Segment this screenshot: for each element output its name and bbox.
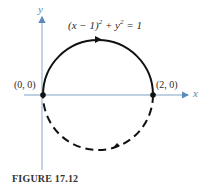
- point-label-2-0: (2, 0): [156, 79, 178, 90]
- point-2-0: [150, 92, 156, 98]
- point-origin: [40, 92, 46, 98]
- lower-semicircle-dashed: [43, 95, 153, 150]
- figure-caption: FIGURE 17.12: [12, 173, 78, 184]
- direction-arrow-bottom-icon: [112, 143, 120, 149]
- circle-equation: (x − 1)2 + y2 = 1: [68, 18, 142, 31]
- direction-arrow-top-icon: [95, 36, 102, 43]
- point-label-origin: (0, 0): [14, 79, 36, 90]
- y-axis-label: y: [38, 3, 43, 15]
- x-axis-label: x: [193, 87, 198, 99]
- upper-semicircle: [43, 40, 153, 95]
